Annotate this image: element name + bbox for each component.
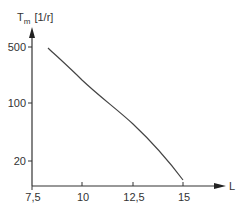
y-axis-arrow-icon (29, 27, 35, 38)
y-ticks: 500 100 20 (8, 41, 32, 167)
x-tick-label: 15 (178, 191, 190, 203)
x-tick-label: 7,5 (25, 191, 40, 203)
x-tick-label: 10 (77, 191, 89, 203)
y-tick-label: 100 (8, 97, 26, 109)
chart: Tm[1/r] L 500 100 20 7,5 10 12,5 15 (0, 0, 246, 214)
x-ticks: 7,5 10 12,5 15 (25, 182, 190, 203)
x-axis-title: L (229, 180, 235, 192)
series-line (48, 48, 183, 180)
x-axis-arrow-icon (214, 183, 226, 189)
y-axis-title: Tm[1/r] (17, 11, 53, 26)
y-tick-label: 20 (14, 155, 26, 167)
x-tick-label: 12,5 (123, 191, 144, 203)
y-tick-label: 500 (8, 41, 26, 53)
